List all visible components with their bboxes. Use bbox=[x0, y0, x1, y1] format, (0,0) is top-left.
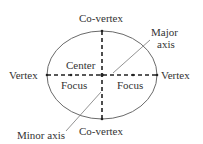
minor-axis-label: Minor axis bbox=[17, 130, 65, 141]
covertex-bottom-point bbox=[101, 118, 104, 121]
vertex-left-label: Vertex bbox=[9, 70, 38, 81]
focus-left-label: Focus bbox=[61, 80, 87, 91]
covertex-bottom-label: Co-vertex bbox=[79, 126, 123, 137]
focus-right-point bbox=[132, 74, 135, 77]
major-axis-label-line2: axis bbox=[157, 39, 175, 50]
vertex-right-label: Vertex bbox=[161, 70, 190, 81]
vertex-left-point bbox=[46, 74, 49, 77]
major-axis-label-line1: Major bbox=[151, 27, 178, 38]
covertex-top-label: Co-vertex bbox=[79, 13, 123, 24]
center-label: Center bbox=[66, 60, 95, 71]
major-axis-pointer bbox=[113, 40, 150, 73]
focus-right-label: Focus bbox=[117, 80, 143, 91]
focus-left-point bbox=[70, 74, 73, 77]
covertex-top-point bbox=[101, 30, 104, 33]
vertex-right-point bbox=[156, 74, 159, 77]
center-point bbox=[100, 73, 104, 77]
